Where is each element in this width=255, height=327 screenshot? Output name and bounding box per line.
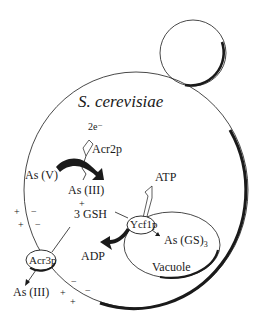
arsenite-inner-label: As (III) (68, 184, 104, 196)
gsh-connector (115, 212, 128, 218)
acr2p-label: Acr2p (92, 143, 122, 155)
charge-plus: + (18, 220, 24, 230)
arsenite-outer-label: As (III) (13, 286, 49, 298)
charge-minus: − (85, 286, 91, 296)
charge-minus: − (35, 220, 41, 230)
atp-label: ATP (155, 171, 176, 183)
organism-title: S. cerevisiae (78, 93, 163, 110)
efflux-arrow (25, 270, 36, 286)
adp-label: ADP (81, 250, 105, 262)
as-gs-subscript: 3 (204, 240, 208, 249)
arsenate-label: As (V) (25, 169, 58, 181)
charge-plus: + (60, 288, 66, 298)
arsenic-glutathione-label: As (GS)3 (164, 234, 208, 249)
ycf1p-label: Ycf1p (130, 219, 158, 230)
transport-arrow (152, 230, 160, 236)
atp-hydrolysis-arrow (100, 228, 130, 250)
atp-arrow (143, 186, 152, 220)
acr3p-label: Acr3p (29, 255, 57, 266)
bud-cell (160, 20, 226, 86)
gsh-label: 3 GSH (74, 208, 107, 220)
reduction-arrow (56, 159, 104, 180)
charge-minus: − (31, 207, 37, 217)
as-gs-text: As (GS) (164, 233, 204, 247)
vacuole-label: Vacuole (152, 261, 191, 273)
diagram-canvas (0, 0, 255, 327)
acr3p-connector (52, 227, 70, 252)
charge-plus: + (70, 297, 76, 307)
charge-minus: − (71, 277, 77, 287)
electrons-label: 2e⁻ (88, 122, 103, 132)
charge-plus: + (14, 207, 20, 217)
